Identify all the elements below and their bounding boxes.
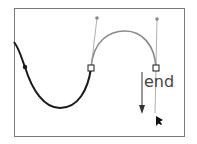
direction-handle-icon xyxy=(95,16,99,20)
anchor-point-icon xyxy=(88,65,94,71)
end-label: end xyxy=(144,74,174,90)
mouse-pointer-icon xyxy=(156,116,163,126)
drawn-path xyxy=(14,42,91,108)
anchor-point-icon xyxy=(153,65,159,71)
smooth-point-icon xyxy=(23,65,27,69)
direction-handle-line xyxy=(91,18,97,68)
direction-handle-icon xyxy=(155,17,159,21)
direction-handle-line xyxy=(156,19,157,68)
preview-path xyxy=(91,31,156,68)
